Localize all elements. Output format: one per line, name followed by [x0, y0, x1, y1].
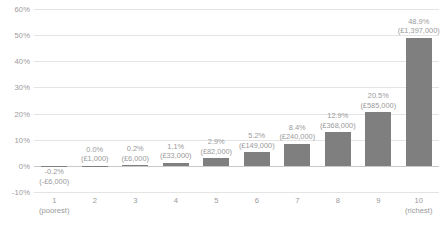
bar-percent-label: 0.2%: [121, 144, 149, 153]
x-tick-value: 4: [174, 196, 178, 205]
y-axis-tick-label: -10%: [12, 188, 30, 197]
bar-group[interactable]: 1.1%(£33,000): [156, 9, 197, 192]
bar[interactable]: [244, 152, 270, 166]
bar[interactable]: [406, 38, 432, 166]
x-axis-tick-label: 5: [214, 196, 218, 206]
bar-amount-label: (£82,000): [200, 147, 232, 156]
x-axis-tick-label: 8: [336, 196, 340, 206]
bar-percent-label: 20.5%: [360, 91, 396, 100]
bar-group[interactable]: 8.4%(£240,000): [277, 9, 318, 192]
x-tick-value: 6: [255, 196, 259, 205]
bar-group[interactable]: 0.2%(£6,000): [115, 9, 156, 192]
bar-group[interactable]: 2.9%(£82,000): [196, 9, 237, 192]
x-axis-tick-label: 1(poorest): [39, 196, 69, 216]
x-tick-value: 2: [93, 196, 97, 205]
bar-group[interactable]: -0.2%(-£6,000): [34, 9, 75, 192]
y-axis-tick-label: 30%: [15, 83, 31, 92]
x-axis-tick-label: 4: [174, 196, 178, 206]
bar-amount-label: (£368,000): [320, 121, 356, 130]
bar-value-label: 1.1%(£33,000): [160, 142, 192, 161]
x-axis-tick-label: 10(richest): [405, 196, 432, 216]
x-tick-value: 1: [52, 196, 56, 205]
x-tick-value: 10: [415, 196, 423, 205]
bar-value-label: 20.5%(£585,000): [360, 91, 396, 110]
plot-area: -0.2%(-£6,000)0.0%(£1,000)0.2%(£6,000)1.…: [34, 9, 439, 192]
bar-group[interactable]: 12.9%(£368,000): [318, 9, 359, 192]
y-axis-tick-label: 20%: [15, 109, 31, 118]
bar-amount-label: (£1,000): [81, 154, 109, 163]
bar-amount-label: (£33,000): [160, 151, 192, 160]
x-tick-sublabel: (richest): [405, 206, 432, 216]
y-axis-tick-label: 60%: [15, 5, 31, 14]
x-tick-sublabel: (poorest): [39, 206, 69, 216]
y-axis-tick-label: 40%: [15, 57, 31, 66]
bar[interactable]: [203, 158, 229, 166]
bar-value-label: 12.9%(£368,000): [320, 111, 356, 130]
bar-percent-label: -0.2%: [39, 167, 69, 176]
bar-group[interactable]: 0.0%(£1,000): [75, 9, 116, 192]
bar-value-label: 2.9%(£82,000): [200, 137, 232, 156]
bar-value-label: 0.2%(£6,000): [121, 144, 149, 163]
bar-value-label: 5.2%(£149,000): [239, 131, 275, 150]
x-axis-tick-label: 2: [93, 196, 97, 206]
bar-percent-label: 5.2%: [239, 131, 275, 140]
bar-percent-label: 8.4%: [279, 123, 315, 132]
bar[interactable]: [365, 112, 391, 166]
bar[interactable]: [122, 165, 148, 166]
bar-amount-label: (£149,000): [239, 141, 275, 150]
bar-percent-label: 12.9%: [320, 111, 356, 120]
bar[interactable]: [163, 163, 189, 166]
bar-percent-label: 1.1%: [160, 142, 192, 151]
bar-percent-label: 48.9%: [398, 17, 440, 26]
y-axis-tick-label: 10%: [15, 135, 31, 144]
x-axis-tick-label: 7: [295, 196, 299, 206]
x-tick-value: 8: [336, 196, 340, 205]
x-tick-value: 3: [133, 196, 137, 205]
bar-amount-label: (-£6,000): [39, 177, 69, 186]
bar[interactable]: [284, 144, 310, 166]
bar-group[interactable]: 48.9%(£1,397,000): [399, 9, 440, 192]
bar-amount-label: (£240,000): [279, 132, 315, 141]
x-tick-value: 5: [214, 196, 218, 205]
x-tick-value: 9: [376, 196, 380, 205]
bar-amount-label: (£6,000): [121, 154, 149, 163]
y-axis-tick-label: 0%: [19, 161, 30, 170]
bar-value-label: 48.9%(£1,397,000): [398, 17, 440, 36]
x-tick-value: 7: [295, 196, 299, 205]
x-axis-tick-label: 6: [255, 196, 259, 206]
bar-group[interactable]: 5.2%(£149,000): [237, 9, 278, 192]
x-axis-tick-label: 9: [376, 196, 380, 206]
x-axis: 1(poorest)2345678910(richest): [34, 192, 439, 235]
bar-percent-label: 2.9%: [200, 137, 232, 146]
bar-amount-label: (£585,000): [360, 101, 396, 110]
bar[interactable]: [82, 166, 108, 167]
bar-series: -0.2%(-£6,000)0.0%(£1,000)0.2%(£6,000)1.…: [34, 9, 439, 192]
bar-group[interactable]: 20.5%(£585,000): [358, 9, 399, 192]
bar[interactable]: [325, 132, 351, 166]
x-axis-tick-label: 3: [133, 196, 137, 206]
bar-value-label: 0.0%(£1,000): [81, 145, 109, 164]
bar-value-label: -0.2%(-£6,000): [39, 167, 69, 186]
y-axis: 60%50%40%30%20%10%0%-10%: [0, 0, 34, 235]
bar-chart: 60%50%40%30%20%10%0%-10% -0.2%(-£6,000)0…: [0, 0, 447, 235]
bar-value-label: 8.4%(£240,000): [279, 123, 315, 142]
bar-amount-label: (£1,397,000): [398, 26, 440, 35]
bar-percent-label: 0.0%: [81, 145, 109, 154]
y-axis-tick-label: 50%: [15, 31, 31, 40]
